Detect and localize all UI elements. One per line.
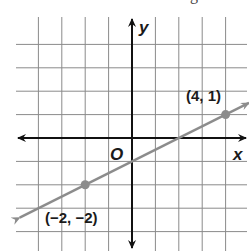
origin-label: O — [110, 145, 123, 164]
coordinate-plane: y x O (4, 1) (−2, −2) — [0, 0, 249, 251]
plotted-line — [20, 103, 249, 218]
point-label-neg2-neg2: (−2, −2) — [45, 209, 98, 226]
point-marker — [81, 180, 90, 189]
point-marker — [221, 110, 230, 119]
x-axis-label: x — [232, 145, 244, 164]
point-label-4-1: (4, 1) — [186, 87, 221, 104]
y-axis-label: y — [138, 18, 150, 37]
